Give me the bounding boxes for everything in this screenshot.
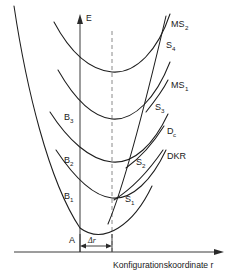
label-S4: S 4 [166, 40, 176, 52]
curve-branch-MS2 [108, 16, 166, 224]
arrow-right-icon [214, 249, 224, 255]
label-S1-sub: 1 [131, 199, 135, 206]
x-axis-label: Konfigurationskoordinate r [113, 260, 213, 270]
configuration-coordinate-diagram: E Konfigurationskoordinate r Δr A B 1 B … [0, 0, 229, 276]
label-S1: S 1 [125, 194, 135, 206]
label-B2-sub: 2 [70, 160, 74, 167]
label-MS1-text: MS [171, 80, 185, 90]
label-Dc-sub: c [173, 131, 176, 138]
label-B2: B 2 [64, 155, 74, 167]
label-MS2-sub: 2 [185, 24, 189, 31]
label-S3-sub: 3 [161, 107, 165, 114]
delta-r-label: Δr [87, 236, 97, 245]
label-B3: B 3 [64, 112, 74, 124]
label-DKR-text: DKR [167, 151, 187, 161]
delta-r-marker [80, 234, 112, 252]
label-ground-state-A: A [69, 235, 75, 245]
axes-group [14, 14, 224, 255]
delta-r-arrow-right-icon [106, 244, 112, 249]
label-MS2: MS 2 [171, 19, 189, 31]
label-B3-sub: 3 [70, 117, 74, 124]
label-S2-sub: 2 [142, 162, 146, 169]
label-S4-sub: 4 [172, 45, 176, 52]
arrow-up-icon [77, 14, 83, 24]
label-Dc: D c [167, 126, 176, 138]
label-DKR: DKR [167, 151, 187, 161]
label-MS2-text: MS [171, 19, 185, 29]
delta-r-arrow-left-icon [80, 244, 86, 249]
potential-curves-group [14, 6, 170, 234]
y-axis-label: E [86, 13, 92, 23]
label-MS1-sub: 1 [185, 85, 189, 92]
label-B1-sub: 1 [70, 196, 74, 203]
curve-excited-state-B4 [54, 14, 170, 72]
label-MS1: MS 1 [171, 80, 189, 92]
figure-container: E Konfigurationskoordinate r Δr A B 1 B … [0, 0, 229, 276]
label-S3: S 3 [155, 102, 165, 114]
label-S2: S 2 [136, 157, 146, 169]
